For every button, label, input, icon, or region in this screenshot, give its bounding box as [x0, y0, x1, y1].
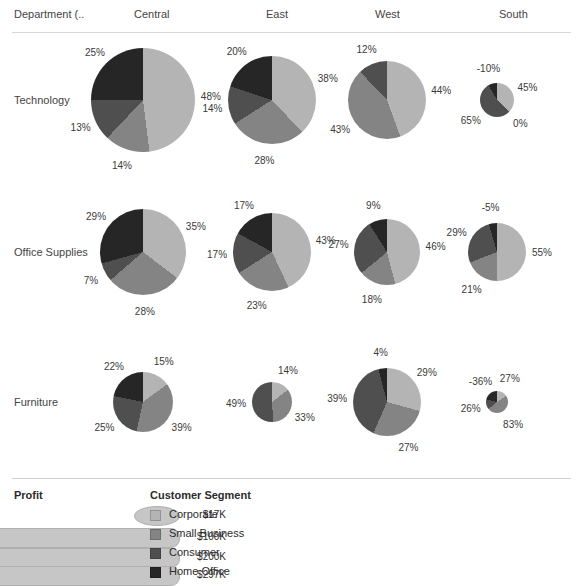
pie-cell[interactable]: 35%28%7%29% [73, 182, 213, 322]
segment-color-swatch [150, 510, 161, 521]
segment-color-swatch [150, 548, 161, 559]
pie-slice-label: 55% [532, 247, 552, 258]
pie-slice-label: 45% [517, 82, 537, 93]
pie-slice-label: 83% [503, 418, 523, 429]
pie-chart[interactable] [113, 372, 173, 432]
pie-slice-label: 12% [357, 43, 377, 54]
pie-slice-label: 28% [254, 154, 274, 165]
profit-legend-title: Profit [14, 489, 43, 501]
segment-legend-item[interactable]: Home Office [150, 565, 280, 581]
pie-slice-label: 0% [513, 118, 527, 129]
segment-label: Consumer [169, 546, 220, 558]
pie-slice-label: 27% [398, 442, 418, 453]
pie-chart[interactable] [354, 219, 420, 285]
column-header-east[interactable]: East [266, 8, 288, 20]
pie-slice-label: -5% [482, 202, 500, 213]
pie-chart[interactable] [348, 61, 426, 139]
pie-chart[interactable] [252, 382, 292, 422]
segment-color-swatch [150, 567, 161, 578]
pie-slice-label: 28% [135, 305, 155, 316]
segment-legend-item[interactable]: Consumer [150, 546, 280, 562]
column-header-central[interactable]: Central [134, 8, 169, 20]
pie-slice-label: 9% [366, 199, 380, 210]
pie-slice-label: 33% [295, 411, 315, 422]
pie-chart[interactable] [353, 368, 421, 436]
pie-slice-label: 49% [226, 398, 246, 409]
pie-slice-label: 20% [227, 46, 247, 57]
legend-divider [12, 478, 571, 479]
pie-slice-label: -36% [469, 375, 492, 386]
pie-slice-label: 22% [104, 361, 124, 372]
pie-slice-label: 15% [154, 355, 174, 366]
pie-slice-label: 23% [247, 299, 267, 310]
segment-label: Small Business [169, 527, 244, 539]
pie-slice-label: 27% [329, 239, 349, 250]
segment-legend-item[interactable]: Small Business [150, 527, 280, 543]
pie-slice-label: 25% [94, 422, 114, 433]
pie-slice-label: 7% [84, 274, 98, 285]
pie-cell[interactable]: 27%83%26%-36% [427, 332, 567, 472]
pie-slice-label: 17% [234, 199, 254, 210]
pie-slice-label: 4% [373, 347, 387, 358]
pie-cell[interactable]: 15%39%25%22% [73, 332, 213, 472]
pie-chart[interactable] [486, 391, 508, 413]
row-label-technology[interactable]: Technology [14, 94, 70, 106]
pie-slice-label: 39% [172, 422, 192, 433]
header-corner-label: Department (.. [14, 8, 84, 20]
pie-chart[interactable] [228, 56, 316, 144]
pie-chart[interactable] [480, 83, 514, 117]
pie-slice-label: 29% [86, 211, 106, 222]
pie-chart[interactable] [233, 213, 311, 291]
segment-legend-item[interactable]: Corporate [150, 508, 280, 524]
pie-chart[interactable] [91, 48, 195, 152]
pie-chart[interactable] [100, 209, 186, 295]
pie-slice-label: 13% [71, 122, 91, 133]
pie-slice-label: 39% [327, 393, 347, 404]
pie-slice-label: 14% [202, 102, 222, 113]
pie-cell[interactable]: 45%0%65%-10% [427, 30, 567, 170]
column-header-south[interactable]: South [499, 8, 528, 20]
pie-cell[interactable]: 55%21%29%-5% [427, 182, 567, 322]
pie-slice-label: 14% [112, 159, 132, 170]
segment-color-swatch [150, 529, 161, 540]
pie-chart[interactable] [468, 223, 526, 281]
pie-slice-label: 21% [462, 284, 482, 295]
pie-slice-label: 17% [207, 248, 227, 259]
pie-cell[interactable]: 48%14%13%25% [73, 30, 213, 170]
pie-slice-label: 25% [85, 46, 105, 57]
pie-slice-label: -10% [477, 63, 500, 74]
pie-slice-label: 65% [461, 115, 481, 126]
pie-slice-label: 14% [278, 364, 298, 375]
pie-slice-label: 27% [500, 373, 520, 384]
pie-slice-label: 43% [330, 123, 350, 134]
pie-slice-label: 29% [447, 227, 467, 238]
pie-slice-label: 18% [362, 293, 382, 304]
segment-label: Home Office [169, 565, 230, 577]
segment-legend-title: Customer Segment [150, 489, 251, 501]
segment-label: Corporate [169, 508, 218, 520]
pie-slice-label: 26% [461, 402, 481, 413]
column-header-west[interactable]: West [375, 8, 400, 20]
row-label-furniture[interactable]: Furniture [14, 396, 58, 408]
